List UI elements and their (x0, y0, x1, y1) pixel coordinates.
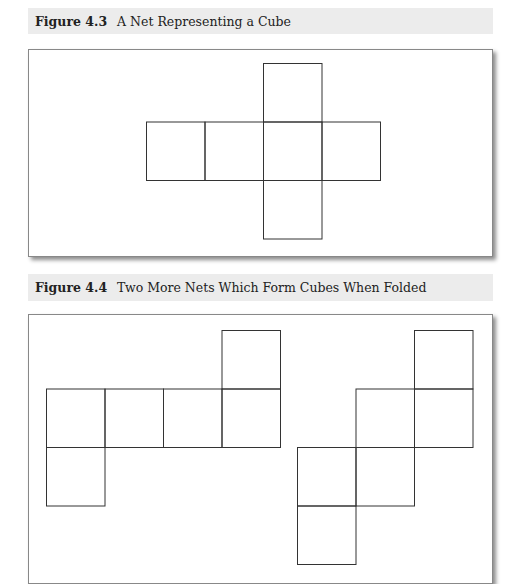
net-face (164, 389, 223, 448)
net-face (298, 506, 357, 565)
net-face (415, 389, 474, 448)
net-face (47, 389, 106, 448)
net-face (222, 331, 281, 390)
net-face (298, 448, 357, 507)
net-face (105, 389, 164, 448)
net-face (415, 331, 474, 390)
cube-net (147, 64, 381, 240)
net-face (147, 122, 206, 181)
net-face (205, 122, 264, 181)
cube-net (47, 331, 281, 507)
net-face (264, 181, 323, 240)
net-face (264, 64, 323, 123)
net-face (264, 122, 323, 181)
net-face (356, 389, 415, 448)
net-face (47, 448, 106, 507)
net-face (322, 122, 381, 181)
cube-net (298, 331, 474, 565)
net-face (222, 389, 281, 448)
net-face (356, 448, 415, 507)
